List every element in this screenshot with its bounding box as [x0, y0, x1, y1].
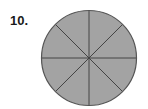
fraction-circle-diagram — [0, 0, 148, 109]
